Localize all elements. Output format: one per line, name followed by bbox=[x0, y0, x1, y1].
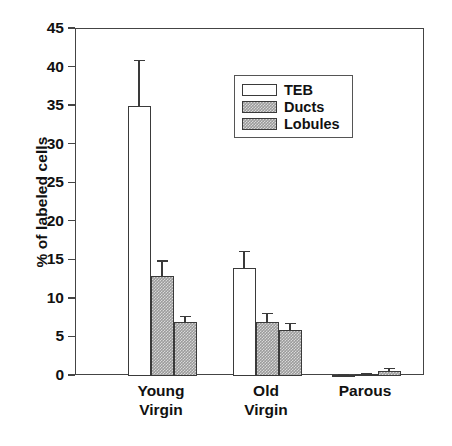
y-tick-mark bbox=[68, 297, 75, 298]
error-bar-cap bbox=[285, 323, 296, 324]
bar bbox=[128, 106, 151, 376]
error-bar-stem bbox=[266, 313, 267, 322]
legend-label: TEB bbox=[284, 81, 313, 99]
x-axis-group-label: YoungVirgin bbox=[101, 382, 221, 419]
y-tick-mark bbox=[68, 143, 75, 144]
error-bar-cap bbox=[338, 374, 349, 375]
legend-swatch bbox=[242, 84, 277, 96]
bar bbox=[256, 322, 279, 376]
error-bar bbox=[384, 368, 395, 371]
bar bbox=[355, 374, 378, 376]
error-bar-stem bbox=[138, 60, 139, 106]
error-bar bbox=[285, 323, 296, 330]
bar bbox=[151, 276, 174, 376]
x-axis-label-line: Parous bbox=[305, 382, 425, 401]
y-tick-label: 30 bbox=[47, 134, 64, 154]
y-tick-mark bbox=[68, 374, 75, 375]
error-bar-cap bbox=[361, 373, 372, 374]
x-axis-label-line: Young bbox=[101, 382, 221, 401]
error-bar bbox=[180, 316, 191, 322]
y-axis-title: % of labeled cells bbox=[33, 82, 51, 322]
x-axis-group-label: Parous bbox=[305, 382, 425, 401]
error-bar-stem bbox=[243, 251, 244, 268]
legend-label: Ducts bbox=[284, 98, 324, 116]
y-tick-mark bbox=[68, 182, 75, 183]
y-tick-mark bbox=[68, 336, 75, 337]
error-bar bbox=[262, 313, 273, 322]
y-tick-label: 35 bbox=[47, 95, 64, 115]
error-bar-cap bbox=[157, 260, 168, 261]
y-tick-label: 45 bbox=[47, 18, 64, 38]
y-tick-mark bbox=[68, 66, 75, 67]
y-tick-label: 0 bbox=[55, 365, 64, 385]
y-tick-mark bbox=[68, 259, 75, 260]
y-tick-label: 20 bbox=[47, 211, 64, 231]
error-bar-cap bbox=[134, 60, 145, 61]
bar bbox=[279, 330, 302, 376]
error-bar-cap bbox=[239, 251, 250, 252]
error-bar bbox=[157, 260, 168, 275]
y-tick-label: 5 bbox=[55, 326, 64, 346]
x-axis-label-line: Virgin bbox=[206, 401, 326, 420]
y-tick-label: 25 bbox=[47, 172, 64, 192]
error-bar bbox=[361, 373, 372, 374]
y-tick-mark bbox=[68, 27, 75, 28]
y-tick-label: 15 bbox=[47, 249, 64, 269]
y-tick-mark bbox=[68, 104, 75, 105]
error-bar-cap bbox=[262, 313, 273, 314]
error-bar bbox=[239, 251, 250, 268]
bar bbox=[174, 322, 197, 376]
legend-swatch bbox=[242, 118, 277, 130]
legend-swatch bbox=[242, 101, 277, 113]
bar bbox=[378, 371, 401, 376]
legend-item: TEB bbox=[242, 83, 347, 98]
error-bar-cap bbox=[384, 368, 395, 369]
error-bar bbox=[134, 60, 145, 106]
legend-label: Lobules bbox=[284, 115, 340, 133]
error-bar-cap bbox=[180, 316, 191, 317]
legend-item: Ducts bbox=[242, 100, 347, 115]
legend-item: Lobules bbox=[242, 117, 347, 132]
bar bbox=[233, 268, 256, 376]
y-tick-label: 40 bbox=[47, 57, 64, 77]
error-bar bbox=[338, 374, 349, 375]
figure: % of labeled cells 051015202530354045 Yo… bbox=[0, 0, 452, 446]
chart-legend: TEBDuctsLobules bbox=[234, 75, 353, 138]
x-axis-label-line: Virgin bbox=[101, 401, 221, 420]
error-bar-stem bbox=[161, 260, 162, 275]
y-tick-label: 10 bbox=[47, 288, 64, 308]
y-tick-mark bbox=[68, 220, 75, 221]
